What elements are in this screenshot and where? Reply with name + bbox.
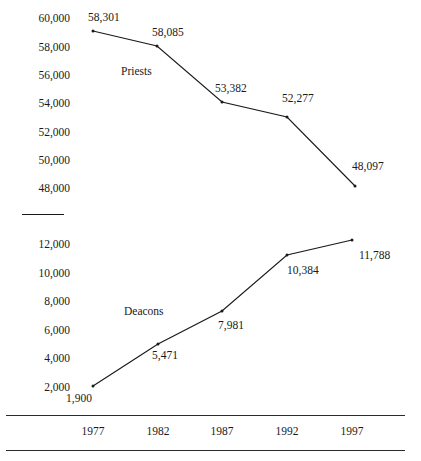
x-axis-year: 1982 — [135, 425, 181, 437]
data-label: 10,384 — [287, 264, 319, 276]
plot-area — [0, 0, 421, 461]
x-axis-rule-bottom — [6, 450, 405, 451]
data-label: 11,788 — [359, 249, 390, 261]
data-label: 48,097 — [352, 160, 384, 172]
x-axis-year: 1987 — [199, 425, 245, 437]
priests-markers — [92, 30, 357, 188]
priests-line — [93, 31, 355, 186]
series-label-priests: Priests — [121, 65, 152, 77]
data-label: 5,471 — [152, 349, 178, 361]
x-axis-year: 1997 — [329, 425, 375, 437]
x-axis-year: 1977 — [70, 425, 116, 437]
data-label: 58,085 — [152, 26, 184, 38]
x-axis-year: 1992 — [264, 425, 310, 437]
data-label: 1,900 — [66, 392, 92, 404]
data-label: 52,277 — [282, 92, 314, 104]
x-axis-rule-top — [6, 415, 405, 416]
chart-container: 60,000 58,000 56,000 54,000 52,000 50,00… — [0, 0, 421, 461]
series-label-deacons: Deacons — [124, 305, 164, 317]
data-label: 7,981 — [218, 319, 244, 331]
data-label: 58,301 — [88, 11, 120, 23]
data-label: 53,382 — [215, 82, 247, 94]
